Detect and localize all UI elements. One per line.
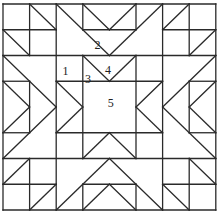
pattern-line	[3, 81, 30, 107]
pattern-line	[189, 81, 216, 107]
pattern-line	[189, 159, 216, 185]
label-region-2: 2	[94, 39, 100, 51]
pattern-line	[109, 56, 136, 82]
pattern-line	[83, 133, 110, 159]
pattern-line	[109, 184, 136, 210]
pattern-line	[136, 81, 163, 107]
pattern-line	[109, 4, 136, 30]
pattern-line	[83, 4, 110, 30]
pattern-line	[56, 81, 83, 107]
label-region-3: 3	[85, 73, 91, 85]
pattern-line	[3, 30, 30, 56]
pattern-line	[30, 4, 57, 30]
pattern-line	[136, 107, 163, 133]
pattern-line	[3, 159, 30, 185]
pattern-line	[189, 107, 216, 133]
pattern-line	[189, 30, 216, 56]
pattern-line	[109, 133, 136, 159]
pattern-line	[163, 4, 190, 30]
pattern-line	[30, 184, 57, 210]
pattern-line	[163, 184, 190, 210]
label-region-4: 4	[105, 64, 111, 76]
pattern-line	[3, 107, 30, 133]
pattern-line	[56, 107, 83, 133]
label-region-1: 1	[63, 65, 69, 77]
label-region-5: 5	[108, 97, 114, 109]
pattern-line	[83, 184, 110, 210]
quilt-block-diagram	[0, 0, 219, 224]
